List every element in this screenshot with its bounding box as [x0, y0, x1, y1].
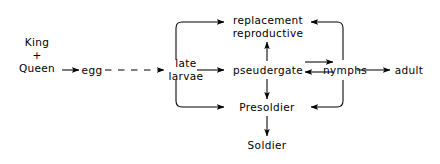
edge-nymphs-to-presoldier [311, 80, 343, 107]
edge-late-larvae-to-presoldier [176, 80, 224, 107]
node-late-larvae-line1: late [169, 57, 204, 70]
node-nymphs: nymphs [323, 64, 367, 77]
node-presoldier: Presoldier [239, 101, 294, 114]
node-replacement-reproductive: replacement reproductive [233, 14, 304, 40]
node-replacement-line1: replacement [233, 14, 304, 27]
node-late-larvae: late larvae [169, 57, 204, 83]
node-adult: adult [395, 64, 424, 77]
node-replacement-line2: reproductive [233, 27, 304, 40]
node-pseudergate: pseudergate [233, 64, 303, 77]
node-soldier: Soldier [248, 139, 287, 152]
edge-nymphs-to-replacement-reproductive [311, 22, 343, 60]
node-queen-label: Queen [19, 62, 55, 75]
node-late-larvae-line2: larvae [169, 70, 204, 83]
node-plus-symbol: + [19, 49, 55, 62]
edge-late-larvae-to-replacement-reproductive [176, 22, 224, 60]
diagram-connectors: late larvae --> [0, 0, 440, 164]
node-king-queen: King + Queen [19, 36, 55, 75]
node-egg: egg [82, 64, 103, 77]
termite-caste-diagram: late larvae --> King + Queen [0, 0, 440, 164]
node-king-label: King [19, 36, 55, 49]
